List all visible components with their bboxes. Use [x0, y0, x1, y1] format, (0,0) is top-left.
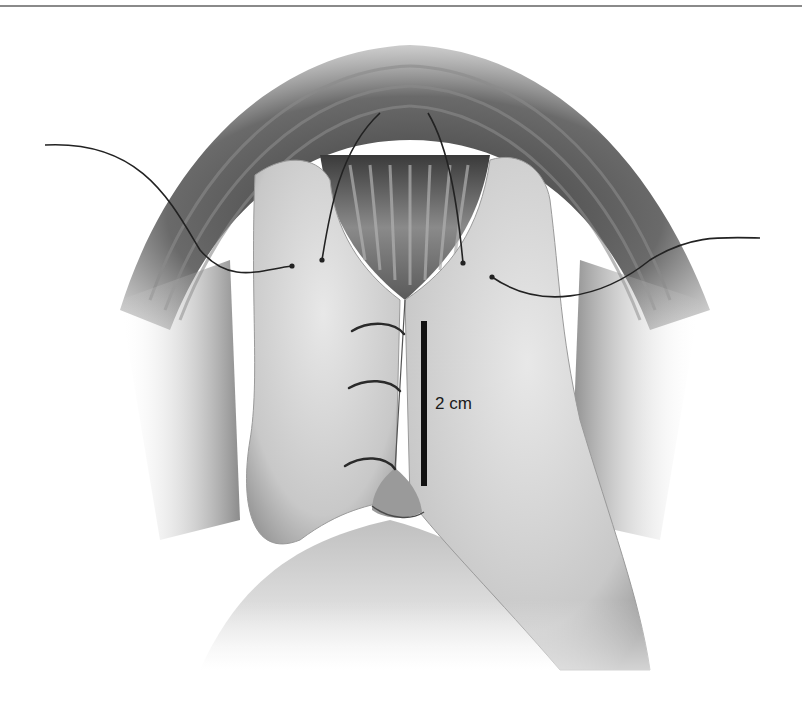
scale-bar [421, 321, 427, 486]
bottom-fade [0, 600, 802, 723]
scale-bar-label: 2 cm [435, 394, 472, 414]
surgical-illustration [0, 0, 802, 723]
